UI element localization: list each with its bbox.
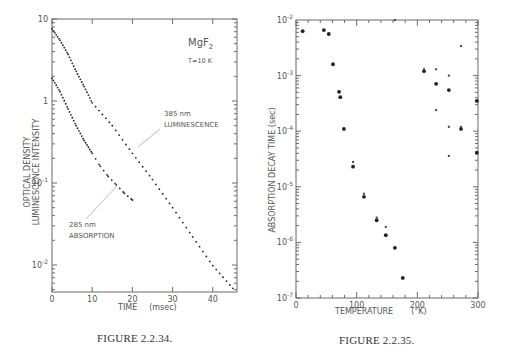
data-point-large: [337, 90, 341, 94]
decay-time-vs-temperature-plot: 010020030010-210-310-410-510-610-7 ABSOR…: [268, 13, 486, 316]
data-point: [87, 146, 89, 148]
data-point: [66, 52, 68, 54]
data-point: [57, 87, 59, 89]
data-point: [209, 260, 211, 262]
y-tick-label: 10-7: [277, 291, 293, 303]
absorption-leader-line: [86, 186, 117, 219]
left-data-points: [51, 28, 234, 289]
data-point: [61, 94, 63, 96]
data-point-large: [342, 127, 346, 131]
y-tick-label: 10-2: [277, 13, 293, 25]
data-point: [81, 135, 83, 137]
data-point: [70, 114, 72, 116]
luminescence-leader-line: [138, 129, 160, 147]
figure-caption-left: FIGURE 2.2.34.: [97, 332, 173, 344]
data-point: [79, 133, 81, 135]
data-point: [83, 140, 85, 142]
x-tick-label: 0: [49, 295, 54, 304]
left-ylabel-outer: OPTICAL DENSITY: [23, 136, 32, 207]
data-point-small: [435, 68, 437, 70]
data-point: [127, 195, 129, 197]
data-point: [51, 77, 53, 79]
data-point: [54, 32, 56, 34]
data-point-small: [448, 126, 450, 128]
data-point: [199, 246, 201, 248]
data-point: [219, 272, 221, 274]
temperature-label: T=10 K: [187, 57, 213, 65]
data-point: [53, 30, 55, 32]
data-point: [98, 163, 100, 165]
y-tick-label: 10: [38, 15, 48, 24]
data-point: [78, 130, 80, 132]
data-point: [189, 232, 191, 234]
data-point: [89, 149, 91, 151]
data-point: [215, 269, 217, 271]
data-point: [62, 97, 64, 99]
data-point: [149, 175, 151, 177]
data-point: [111, 179, 113, 181]
data-point: [63, 100, 65, 102]
data-point: [152, 179, 154, 181]
data-point-small: [423, 68, 425, 70]
data-point: [70, 59, 72, 61]
data-point: [175, 212, 177, 214]
right-plot-frame: [296, 20, 478, 298]
luminescence-label-wavelength: 385 nm: [164, 110, 191, 118]
data-point: [172, 207, 174, 209]
data-point: [74, 123, 76, 125]
figure-caption-right: FIGURE 2.2.35.: [339, 334, 415, 346]
data-point: [192, 236, 194, 238]
data-point: [132, 152, 134, 154]
data-point: [87, 94, 89, 96]
data-point: [55, 34, 57, 36]
data-point-small: [460, 45, 462, 47]
y-tick-label: 10-3: [277, 69, 293, 81]
data-point-large: [331, 62, 335, 66]
data-point: [118, 134, 120, 136]
data-point: [108, 121, 110, 123]
data-point: [169, 203, 171, 205]
data-point: [86, 144, 88, 146]
data-point: [185, 227, 187, 229]
right-data-points: [301, 19, 479, 280]
data-point: [82, 84, 84, 86]
data-point-small: [448, 75, 450, 77]
data-point: [165, 198, 167, 200]
data-point: [99, 165, 101, 167]
data-point: [195, 241, 197, 243]
data-point: [232, 287, 234, 289]
x-tick-label: 300: [470, 301, 485, 310]
data-point: [73, 65, 75, 67]
data-point: [91, 102, 93, 104]
data-point: [123, 192, 125, 194]
data-point: [85, 89, 87, 91]
data-point-large: [475, 151, 479, 155]
data-point-large: [375, 218, 379, 222]
data-point-large: [447, 88, 451, 92]
luminescence-decay-plot: 01020304010110-110-2 MgF2 T=10 K 385 nm …: [23, 15, 237, 312]
data-point: [98, 110, 100, 112]
data-point: [155, 183, 157, 185]
data-point-small: [460, 126, 462, 128]
data-point: [95, 106, 97, 108]
data-point: [74, 68, 76, 70]
data-point: [135, 157, 137, 159]
data-point: [111, 125, 113, 127]
data-point: [81, 81, 83, 83]
y-tick-label: 10-5: [277, 180, 293, 192]
left-xlabel: TIME(msec): [117, 303, 177, 312]
data-point: [51, 28, 53, 30]
data-point: [53, 80, 55, 82]
y-tick-label: 10-2: [32, 258, 48, 270]
figure-canvas: 01020304010110-110-2 MgF2 T=10 K 385 nm …: [0, 0, 507, 362]
x-tick-label: 40: [208, 295, 218, 304]
material-label: MgF2: [188, 37, 213, 51]
data-point: [85, 142, 87, 144]
data-point-small: [448, 155, 450, 157]
data-point-small: [352, 161, 354, 163]
data-point-large: [301, 29, 305, 33]
data-point: [179, 217, 181, 219]
data-point: [138, 161, 140, 163]
data-point: [71, 117, 73, 119]
data-point: [115, 129, 117, 131]
